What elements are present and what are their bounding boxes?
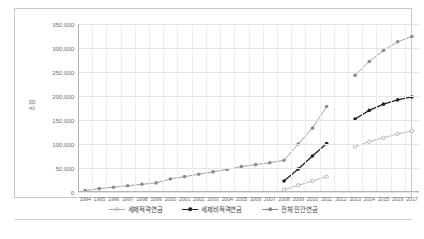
- plot-inner: [78, 24, 419, 192]
- data-point: [183, 175, 187, 179]
- data-point: [126, 184, 130, 188]
- x-separator: [348, 24, 349, 192]
- y-axis-line: [78, 24, 79, 192]
- x-separator: [192, 24, 193, 192]
- legend-item[interactable]: 세제비적격연금: [182, 205, 242, 214]
- x-separator: [291, 24, 292, 192]
- x-separator: [234, 24, 235, 192]
- y-axis-tick-label: 300,000: [14, 45, 74, 52]
- x-separator: [305, 24, 306, 192]
- x-separator: [106, 24, 107, 192]
- series-line: [355, 36, 412, 75]
- data-point: [282, 179, 286, 183]
- x-separator: [206, 24, 207, 192]
- x-separator: [405, 24, 406, 192]
- legend-item[interactable]: 전체 민간연금: [262, 205, 317, 214]
- data-point: [211, 170, 215, 174]
- data-point: [410, 35, 414, 39]
- data-point: [254, 163, 258, 167]
- x-separator: [149, 24, 150, 192]
- gridline: [78, 192, 419, 193]
- data-point: [112, 185, 116, 189]
- plot-area: 050,000100,000150,000200,000250,000300,0…: [78, 24, 419, 192]
- x-axis-line: [78, 191, 419, 192]
- x-separator: [362, 24, 363, 192]
- data-point: [367, 109, 371, 113]
- x-separator: [334, 24, 335, 192]
- data-point: [325, 105, 329, 109]
- data-point: [382, 102, 386, 106]
- data-point: [169, 177, 173, 181]
- chart-screenshot: 조원 050,000100,000150,000200,000250,00030…: [0, 0, 424, 239]
- x-separator: [177, 24, 178, 192]
- data-point: [367, 60, 371, 64]
- x-separator: [92, 24, 93, 192]
- data-point: [140, 183, 144, 187]
- x-separator: [320, 24, 321, 192]
- data-point: [410, 129, 413, 132]
- data-point: [311, 126, 315, 130]
- data-point: [396, 132, 399, 135]
- legend-marker-icon: [182, 206, 198, 213]
- chart-frame: 조원 050,000100,000150,000200,000250,00030…: [14, 8, 412, 198]
- x-separator: [376, 24, 377, 192]
- x-separator: [277, 24, 278, 192]
- data-point: [396, 40, 400, 44]
- y-axis-tick-label: 0: [14, 189, 74, 196]
- legend-label: 세제비적격연금: [201, 205, 242, 214]
- chart-legend: 세제적격연금세제비적격연금전체 민간연금: [14, 200, 412, 218]
- data-point: [311, 154, 315, 158]
- legend-label: 세제적격연금: [128, 205, 163, 214]
- legend-divider: [14, 219, 412, 220]
- data-point: [368, 140, 371, 143]
- y-axis-tick-label: 200,000: [14, 93, 74, 100]
- data-point: [396, 98, 400, 102]
- y-axis-tick-label: 350,000: [14, 21, 74, 28]
- y-axis-title: 조원: [27, 99, 36, 111]
- y-axis-tick-label: 50,000: [14, 165, 74, 172]
- y-axis-tick-label: 250,000: [14, 69, 74, 76]
- y-axis-tick-label: 150,000: [14, 117, 74, 124]
- legend-label: 전체 민간연금: [281, 205, 317, 214]
- data-point: [197, 172, 201, 176]
- x-separator: [135, 24, 136, 192]
- data-point: [311, 179, 314, 182]
- x-separator: [220, 24, 221, 192]
- data-point: [353, 74, 357, 78]
- data-point: [268, 161, 272, 165]
- legend-marker-icon: [262, 206, 278, 213]
- x-separator: [263, 24, 264, 192]
- x-separator: [249, 24, 250, 192]
- data-point: [353, 145, 356, 148]
- data-point: [325, 175, 328, 178]
- data-point: [282, 159, 286, 163]
- data-point: [382, 49, 386, 53]
- data-point: [382, 136, 385, 139]
- y-axis-tick-label: 100,000: [14, 141, 74, 148]
- data-point: [297, 184, 300, 187]
- data-point: [154, 181, 158, 185]
- legend-marker-icon: [109, 206, 125, 213]
- series-line: [355, 97, 412, 119]
- legend-item[interactable]: 세제적격연금: [109, 205, 163, 214]
- x-separator: [391, 24, 392, 192]
- data-point: [98, 187, 102, 191]
- x-separator: [121, 24, 122, 192]
- x-separator: [163, 24, 164, 192]
